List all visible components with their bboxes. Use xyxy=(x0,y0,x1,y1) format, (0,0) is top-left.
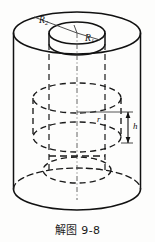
height-arrow-up xyxy=(126,112,131,118)
figure-container: R2 R1 r h 解图 9-8 xyxy=(0,0,155,242)
height-arrow-down xyxy=(126,137,131,143)
label-inner-radius-subscript: 1 xyxy=(91,37,94,44)
inner-cylinder-top-ellipse xyxy=(33,83,121,113)
label-small-radius: r xyxy=(97,115,100,124)
label-outer-radius-subscript: 2 xyxy=(45,19,48,26)
figure-caption: 解图 9-8 xyxy=(0,221,155,237)
label-inner-radius-symbol: R xyxy=(85,33,91,43)
label-height: h xyxy=(133,122,138,131)
cylinder-diagram xyxy=(0,0,155,242)
label-outer-radius: R2 xyxy=(39,16,48,26)
label-inner-radius: R1 xyxy=(85,34,94,44)
label-outer-radius-symbol: R xyxy=(39,15,45,25)
